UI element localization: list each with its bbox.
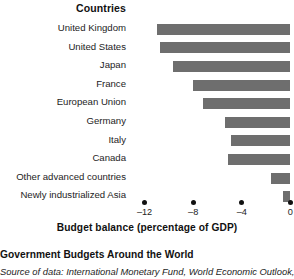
category-label: United Kingdom xyxy=(0,22,126,34)
chart-row: Japan xyxy=(0,57,294,76)
category-label: Italy xyxy=(0,134,126,146)
axis-tick-marker xyxy=(191,200,196,205)
bar xyxy=(193,80,290,91)
bar xyxy=(225,117,291,128)
chart-row: United States xyxy=(0,39,294,58)
bar-track xyxy=(130,39,294,58)
axis-tick-label: –4 xyxy=(227,207,257,217)
figure-source-note: Source of data: International Monetary F… xyxy=(0,266,294,277)
bar xyxy=(231,135,291,146)
chart-row: Other advanced countries xyxy=(0,169,294,188)
caption-divider xyxy=(0,240,294,241)
chart-row: United Kingdom xyxy=(0,20,294,39)
axis-tick-label: –8 xyxy=(178,207,208,217)
bar-track xyxy=(130,150,294,169)
chart-row: European Union xyxy=(0,94,294,113)
chart-row: Canada xyxy=(0,150,294,169)
chart-figure: Countries United KingdomUnited StatesJap… xyxy=(0,0,294,279)
bar-track xyxy=(130,132,294,151)
category-label: United States xyxy=(0,41,126,53)
plot-area: United KingdomUnited StatesJapanFranceEu… xyxy=(0,20,294,206)
category-label: Japan xyxy=(0,59,126,71)
chart-row: Italy xyxy=(0,132,294,151)
category-label: Other advanced countries xyxy=(0,171,126,183)
bar xyxy=(173,61,291,72)
category-label: European Union xyxy=(0,96,126,108)
axis-tick-marker xyxy=(239,200,244,205)
bar xyxy=(203,98,290,109)
chart-row: France xyxy=(0,76,294,95)
axis-tick-label: –12 xyxy=(130,207,160,217)
bar xyxy=(160,42,290,53)
bar xyxy=(271,173,290,184)
axis-tick-marker xyxy=(142,200,147,205)
column-header-countries: Countries xyxy=(0,2,126,14)
bar-track xyxy=(130,94,294,113)
category-label: France xyxy=(0,78,126,90)
figure-caption-title: Government Budgets Around the World xyxy=(0,249,294,260)
bar-track xyxy=(130,169,294,188)
axis-tick-label: 0 xyxy=(275,207,294,217)
chart-row: Germany xyxy=(0,113,294,132)
category-label: Germany xyxy=(0,115,126,127)
x-axis-title: Budget balance (percentage of GDP) xyxy=(0,222,294,233)
bar-track xyxy=(130,76,294,95)
category-label: Canada xyxy=(0,152,126,164)
bar xyxy=(228,154,290,165)
axis-tick-marker xyxy=(288,200,293,205)
bar xyxy=(157,24,291,35)
bar-track xyxy=(130,20,294,39)
bar-track xyxy=(130,57,294,76)
bar-track xyxy=(130,113,294,132)
